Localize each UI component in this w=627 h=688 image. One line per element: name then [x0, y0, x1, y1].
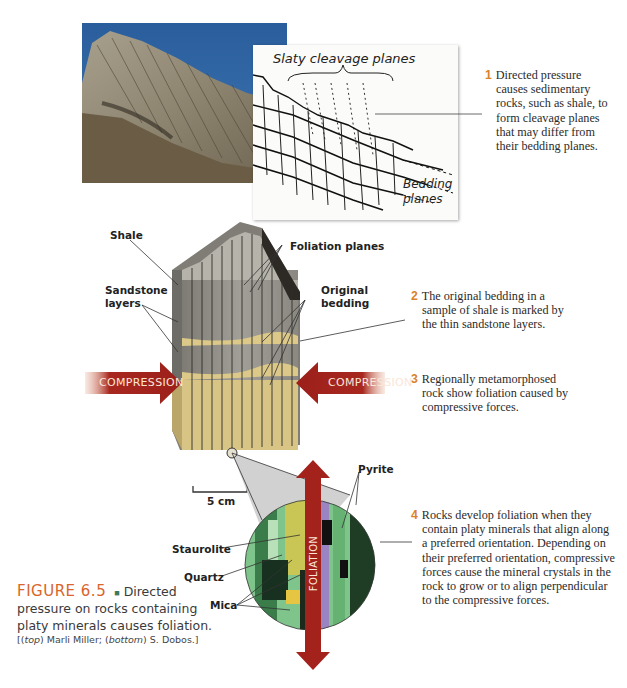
step-4: 4Rocks develop foliation when they conta…	[411, 508, 627, 607]
label-staurolite: Staurolite	[172, 543, 231, 556]
foliation-arrow-label: FOLIATION	[308, 536, 319, 591]
label-foliation-planes: Foliation planes	[290, 240, 384, 253]
label-original-2: bedding	[321, 297, 369, 310]
figure-number: FIGURE 6.5	[17, 582, 106, 600]
figure-caption: FIGURE 6.5 ■Directed pressure on rocks c…	[17, 582, 257, 645]
compression-left-label: COMPRESSION	[99, 376, 183, 389]
scale-label: 5 cm	[207, 495, 235, 508]
photo-credit: [(top) Marli Miller; (bottom) S. Dobos.]	[17, 634, 257, 645]
label-pyrite: Pyrite	[358, 463, 394, 476]
step-2: 2The original bedding in a sample of sha…	[411, 289, 621, 332]
compression-right-label: COMPRESSION	[328, 376, 412, 389]
label-sandstone-2: layers	[105, 297, 141, 310]
caption-separator: ■	[114, 588, 119, 598]
label-sandstone-1: Sandstone	[105, 284, 168, 297]
label-original-1: Original	[321, 284, 368, 297]
label-shale: Shale	[110, 229, 143, 242]
step-3: 3Regionally metamorphosed rock show foli…	[411, 372, 621, 415]
step-1: 1Directed pressure causes sedimentary ro…	[485, 68, 625, 153]
